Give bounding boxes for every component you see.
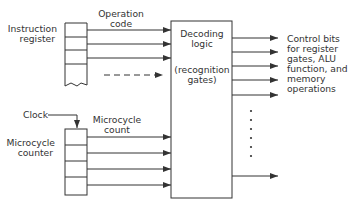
decoding-diagram: Instruction register Operation code Deco…: [0, 0, 351, 205]
instruction-register-label-2: register: [20, 33, 56, 44]
microcycle-counter-label-2: counter: [18, 147, 54, 158]
outputs-label-6: operations: [287, 83, 336, 94]
microcycle-count-arrows: [87, 137, 171, 185]
control-output-arrows: [232, 38, 278, 176]
microcycle-count-label-2: count: [104, 124, 130, 135]
microcycle-counter: [65, 129, 87, 195]
clock-label: Clock: [23, 109, 49, 120]
operation-code-label-2: code: [110, 18, 133, 29]
decoding-logic-label-4: gates): [187, 74, 216, 85]
decoding-logic-label-2: logic: [191, 38, 213, 49]
instruction-register: [65, 23, 87, 86]
clock-arrow: [48, 115, 77, 128]
continuation-dots: [250, 110, 252, 157]
operation-code-arrows: [87, 30, 171, 75]
